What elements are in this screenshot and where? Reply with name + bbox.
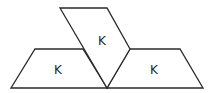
top-parallelogram-label: K xyxy=(98,34,107,48)
geometry-diagram: K K K xyxy=(0,0,209,93)
left-trapezoid-label: K xyxy=(54,63,63,77)
right-trapezoid-label: K xyxy=(150,63,159,77)
